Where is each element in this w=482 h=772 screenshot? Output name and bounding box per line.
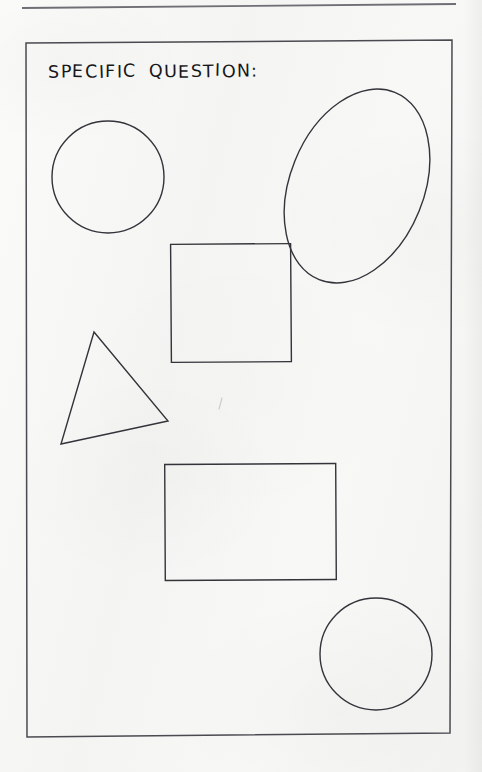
shape-circle-bottom-right xyxy=(320,598,432,710)
worksheet-border xyxy=(26,40,452,737)
title-char: O xyxy=(222,61,237,81)
worksheet-drawing xyxy=(0,0,482,772)
title-char: P xyxy=(60,61,72,81)
title-char: F xyxy=(105,61,117,81)
top-horizontal-rule xyxy=(22,4,456,8)
title-char: C xyxy=(85,61,99,82)
title-char: N xyxy=(237,60,252,81)
title-char xyxy=(137,60,149,81)
faint-pencil-tick xyxy=(219,398,222,409)
title-char: : xyxy=(251,61,259,81)
screenshot-page: SPECIFIC QUESTION: xyxy=(0,0,482,772)
shape-triangle-left xyxy=(61,332,168,444)
shape-ellipse-top-right xyxy=(257,67,457,304)
title-char: E xyxy=(72,61,85,81)
title-char: Q xyxy=(149,60,164,80)
page-title: SPECIFIC QUESTION: xyxy=(48,60,259,82)
title-char: U xyxy=(164,61,179,81)
shape-circle-top-left xyxy=(52,121,164,233)
title-char: S xyxy=(48,62,61,81)
title-char: C xyxy=(123,60,137,81)
title-char: T xyxy=(203,61,215,81)
title-char: S xyxy=(190,61,203,81)
shape-rectangle-lower xyxy=(165,464,337,581)
shape-square-middle xyxy=(171,244,292,363)
title-char: E xyxy=(178,62,191,82)
